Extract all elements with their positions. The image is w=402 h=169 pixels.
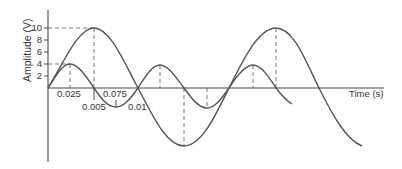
y-tick-10: 10	[31, 22, 42, 33]
y-axis-label: Amplitude (V)	[21, 18, 33, 82]
y-tick-2: 2	[37, 70, 42, 81]
y-tick-4: 4	[37, 58, 42, 69]
x-axis-label: Time (s)	[349, 88, 383, 99]
waveform-chart: 10 8 6 4 2 Amplitude (V) Time (s) 0.025 …	[0, 0, 402, 169]
x-label-0005: 0.005	[82, 101, 106, 112]
x-label-001: 0.01	[128, 101, 147, 112]
y-tick-6: 6	[37, 46, 42, 57]
y-tick-8: 8	[37, 34, 42, 45]
x-label-0025: 0.025	[57, 88, 81, 99]
x-label-0075: 0.075	[103, 88, 127, 99]
large-sine-wave	[48, 28, 362, 146]
guide-lines	[48, 28, 276, 146]
y-ticks	[44, 28, 48, 76]
